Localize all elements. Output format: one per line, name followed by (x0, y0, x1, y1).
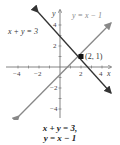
line-label-y-equals-x-minus-1: y = x − 1 (71, 11, 102, 20)
tick-label-x-2: 2 (79, 70, 83, 78)
y-axis-label: y (51, 9, 56, 18)
tick-label-y-neg4: −4 (50, 105, 58, 113)
intersection-point-label: (2, 1) (85, 52, 103, 61)
system-of-equations-graph: −4 −2 2 4 4 2 −2 −4 x y (2, 1) x + y = 3… (0, 0, 120, 120)
tick-label-x-neg2: −2 (34, 70, 42, 78)
x-axis-label: x (106, 69, 111, 78)
tick-label-y-neg2: −2 (50, 84, 58, 92)
caption-line-1: x + y = 3, (0, 123, 120, 133)
tick-label-x-4: 4 (99, 70, 103, 78)
caption-line-2: y = x − 1 (0, 133, 120, 143)
line-y-equals-x-minus-1-full (19, 23, 111, 116)
tick-label-x-neg4: −4 (13, 70, 21, 78)
tick-label-y-2: 2 (53, 42, 57, 50)
tick-label-y-4: 4 (53, 21, 57, 29)
line-label-x-plus-y-equals-3: x + y = 3 (7, 27, 38, 36)
intersection-point-marker (79, 54, 84, 59)
